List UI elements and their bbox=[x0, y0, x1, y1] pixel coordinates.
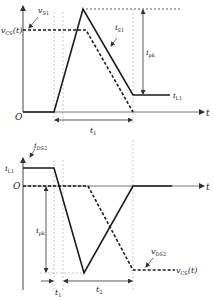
t-axis-label-bottom: t bbox=[206, 182, 210, 192]
label-il1-top: iL1 bbox=[173, 91, 182, 101]
label-ids2: iDS2 bbox=[34, 141, 47, 151]
top-plot: vS1 vCS(t) iS1 ipk iL1 O t t1 bbox=[1, 6, 210, 136]
bottom-plot: iDS2 iL1 O t ipk vDS2 vCS(t) t1 t2 bbox=[5, 140, 210, 298]
origin-bottom: O bbox=[13, 181, 21, 191]
label-t1-bottom: t1 bbox=[55, 288, 61, 298]
ids2-leader bbox=[30, 149, 35, 157]
label-vcs-top: vCS(t) bbox=[1, 26, 22, 36]
bottom-guides bbox=[54, 140, 133, 290]
label-vds2: vDS2 bbox=[151, 247, 166, 257]
label-t1-top: t1 bbox=[90, 126, 96, 136]
label-vs1: vS1 bbox=[38, 6, 49, 16]
top-is1-waveform bbox=[23, 9, 170, 112]
label-is1: iS1 bbox=[115, 23, 124, 33]
label-vcs-bottom: vCS(t) bbox=[176, 266, 197, 276]
is1-leader bbox=[111, 38, 117, 46]
label-ipk-top: ipk bbox=[146, 48, 156, 59]
vs1-leader bbox=[29, 17, 38, 28]
label-ipk-bottom: ipk bbox=[36, 226, 46, 237]
origin-top: O bbox=[15, 112, 23, 122]
vds2-leader bbox=[146, 258, 153, 267]
label-t2-bottom: t2 bbox=[96, 285, 102, 295]
t-axis-label-top: t bbox=[206, 108, 210, 118]
label-il1-bottom: iL1 bbox=[5, 164, 14, 174]
top-vcs-waveform bbox=[23, 30, 133, 112]
waveform-diagram: vS1 vCS(t) iS1 ipk iL1 O t t1 bbox=[0, 0, 214, 300]
bottom-ids2-waveform bbox=[23, 168, 172, 273]
